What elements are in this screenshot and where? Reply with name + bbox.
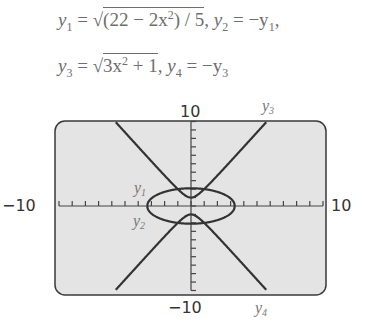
label-y3: y3: [260, 97, 274, 116]
y-min-label: −10: [168, 298, 202, 317]
y-max-label: 10: [180, 102, 200, 121]
label-y4: y4: [253, 299, 267, 318]
graph-svg: −10 10 10 −10 y3 y1 y2 y4: [0, 0, 370, 326]
x-max-label: 10: [331, 196, 351, 215]
x-min-label: −10: [2, 196, 36, 215]
